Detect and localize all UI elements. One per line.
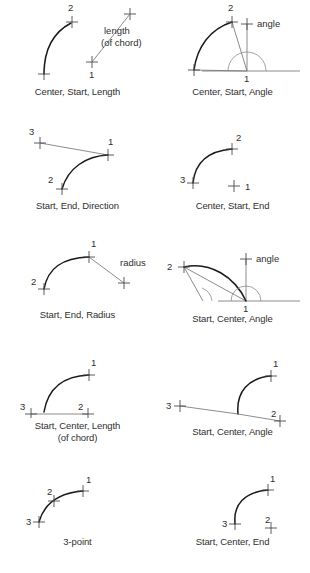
figure-start-center-length: 1 3 2 <box>0 350 155 418</box>
caption-line-1: Start, End, Direction <box>36 200 119 211</box>
point-mark-2 <box>38 283 50 295</box>
arc-path <box>39 491 83 522</box>
point-mark-2 <box>82 408 94 418</box>
angle-indicator-arc-left <box>202 288 212 301</box>
point-mark-3 <box>34 137 46 149</box>
figure-center-start-angle: 2 1 angle <box>155 0 310 84</box>
annotation-angle: angle <box>256 253 279 264</box>
panel-caption: Center, Start, Length <box>0 86 155 98</box>
panel-center-start-end: 2 3 1 Center, Start, End <box>155 120 310 198</box>
point-label-3: 3 <box>222 518 227 529</box>
figure-start-center-end: 1 3 2 <box>155 472 310 534</box>
point-label-1: 1 <box>273 358 278 369</box>
panel-start-center-end: 1 3 2 Start, Center, End <box>155 472 310 534</box>
caption-line-1: Start, Center, End <box>196 536 270 547</box>
panel-caption: Center, Start, Angle <box>155 86 310 98</box>
panel-caption: Start, Center, Angle <box>155 313 310 325</box>
panel-caption: Start, Center, Angle <box>155 426 310 438</box>
figure-center-start-end: 2 3 1 <box>155 120 310 198</box>
arc-path <box>193 149 232 183</box>
figure-three-point: 1 2 3 <box>0 472 155 534</box>
panel-caption: 3-point <box>0 536 155 548</box>
point-mark-3 <box>229 518 241 530</box>
point-mark-radius-end <box>118 277 130 289</box>
annotation-of-chord: (of chord) <box>101 37 142 48</box>
caption-line-1: Start, End, Radius <box>40 309 115 320</box>
point-mark-2 <box>226 143 238 155</box>
panel-caption: Start, Center, End <box>155 536 310 548</box>
annotation-length: length <box>104 25 130 36</box>
point-mark-1 <box>83 251 95 263</box>
caption-line-1: Start, Center, Angle <box>192 426 272 437</box>
figure-start-center-angle-lower: 1 3 2 <box>155 350 310 418</box>
radius-line-to-2 <box>232 22 247 71</box>
point-mark-1 <box>228 180 240 192</box>
figure-start-end-direction: 3 1 2 <box>0 120 155 198</box>
radius-line-to-start <box>194 70 247 71</box>
point-mark-1 <box>102 149 114 161</box>
point-label-1: 1 <box>108 136 113 147</box>
point-label-2: 2 <box>236 132 241 143</box>
arc-methods-sheet: 2 1 length (of chord) Center, Start, Len… <box>0 0 310 573</box>
point-mark-vertical-top <box>240 253 252 265</box>
caption-line-2: (of chord) <box>0 432 155 444</box>
annotation-angle: angle <box>257 18 280 29</box>
panel-caption: Start, End, Radius <box>0 309 155 321</box>
annotation-radius: radius <box>120 257 146 268</box>
panel-caption: Center, Start, End <box>155 200 310 212</box>
panel-caption: Start, End, Direction <box>0 200 155 212</box>
point-mark-2 <box>178 261 190 273</box>
figure-center-start-length: 2 1 length (of chord) <box>0 0 155 84</box>
panel-start-center-angle-lower: 1 3 2 Start, Center, Angle <box>155 350 310 418</box>
point-mark-center <box>38 68 50 80</box>
point-label-1: 1 <box>91 238 96 249</box>
caption-line-1: Start, Center, Length <box>35 420 121 431</box>
point-label-2: 2 <box>47 486 52 497</box>
arc-path <box>62 155 108 189</box>
point-mark-vertical-top <box>241 18 253 30</box>
panel-caption: Start, Center, Length (of chord) <box>0 420 155 443</box>
point-mark-1 <box>77 485 89 497</box>
panel-start-center-length: 1 3 2 Start, Center, Length (of chord) <box>0 350 155 418</box>
caption-line-1: 3-point <box>63 536 91 547</box>
radius-line <box>89 257 124 283</box>
direction-line <box>40 143 108 155</box>
point-label-2: 2 <box>31 276 36 287</box>
arc-path <box>44 257 89 289</box>
point-label-1: 1 <box>244 73 249 84</box>
caption-line-1: Center, Start, Length <box>35 86 121 97</box>
arc-path <box>235 490 268 524</box>
point-mark-start <box>188 64 200 76</box>
arc-path <box>194 22 232 70</box>
point-mark-1 <box>83 369 95 381</box>
caption-line-1: Start, Center, Angle <box>192 313 272 324</box>
point-mark-1 <box>265 370 277 382</box>
point-label-1: 1 <box>86 474 91 485</box>
point-label-2: 2 <box>68 2 73 13</box>
figure-start-center-angle-upper: 2 1 angle <box>155 235 310 307</box>
point-mark-3 <box>174 400 186 412</box>
arc-path <box>44 23 71 74</box>
point-mark-3 <box>187 177 199 189</box>
point-mark-3 <box>25 408 37 418</box>
point-label-3: 3 <box>26 516 31 527</box>
point-label-3: 3 <box>180 174 185 185</box>
radius-line-left <box>180 406 238 414</box>
point-mark-3 <box>33 516 45 528</box>
point-label-1: 1 <box>270 473 275 484</box>
point-label-1: 1 <box>89 69 94 80</box>
point-label-1: 1 <box>91 357 96 368</box>
panel-start-end-direction: 3 1 2 Start, End, Direction <box>0 120 155 198</box>
caption-line-1: Center, Start, End <box>196 200 270 211</box>
point-label-3: 3 <box>29 126 34 137</box>
point-mark-2 <box>226 16 238 28</box>
arc-path <box>238 376 271 414</box>
point-label-3: 3 <box>20 401 25 412</box>
caption-line-1: Center, Start, Angle <box>192 86 272 97</box>
point-label-2: 2 <box>228 2 233 13</box>
point-label-2: 2 <box>265 514 270 525</box>
point-mark-2 <box>56 183 68 195</box>
point-mark-2 <box>66 16 78 28</box>
panel-start-center-angle-upper: 2 1 angle Start, Center, Angle <box>155 235 310 307</box>
figure-start-end-radius: 1 2 radius <box>0 235 155 307</box>
